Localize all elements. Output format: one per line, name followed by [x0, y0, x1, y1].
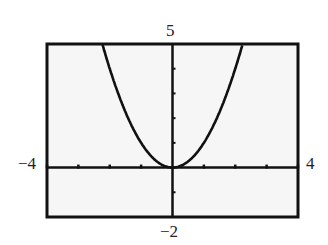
plot-svg — [0, 0, 328, 245]
xmin-label: −4 — [18, 155, 36, 172]
xmax-label: 4 — [306, 155, 315, 172]
ymax-label: 5 — [166, 22, 175, 39]
ymin-label: −2 — [160, 223, 178, 240]
